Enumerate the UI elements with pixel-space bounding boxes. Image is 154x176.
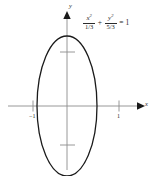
coordinate-plot (0, 0, 154, 176)
ellipse-figure: x2 1/3 + y2 5/3 = 1 x y −1 1 (0, 0, 154, 176)
x-term-denominator: 1/3 (83, 24, 95, 31)
y-axis-label: y (69, 2, 72, 9)
x-term-fraction: x2 1/3 (83, 14, 95, 31)
y-term-numerator: y2 (106, 14, 115, 23)
x-axis-label: x (145, 100, 148, 107)
x-tick-label-pos1: 1 (117, 113, 120, 119)
x-axis-arrow-icon (137, 102, 145, 110)
plus-operator: + (98, 19, 102, 27)
y-axis-arrow-icon (63, 11, 70, 19)
ellipse-equation: x2 1/3 + y2 5/3 = 1 (82, 14, 131, 31)
x-tick-label-neg1: −1 (29, 113, 35, 119)
x-term-numerator: x2 (84, 14, 93, 23)
equals-one: = 1 (119, 19, 129, 27)
y-term-denominator: 5/3 (105, 24, 117, 31)
y-term-fraction: y2 5/3 (105, 14, 117, 31)
